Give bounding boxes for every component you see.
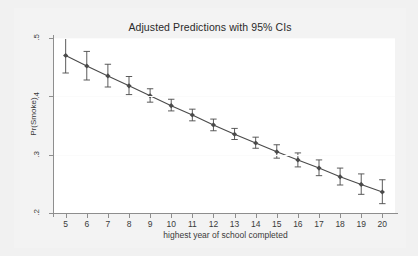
x-axis-tick: [171, 214, 172, 218]
x-axis-tick: [87, 214, 88, 218]
data-point-marker: [211, 122, 216, 127]
x-axis-tick-label: 17: [308, 219, 330, 229]
data-point-marker: [316, 165, 321, 170]
data-point-marker: [190, 112, 195, 117]
y-axis-title: Pr(Smoke): [29, 82, 38, 152]
y-axis-tick: [49, 96, 53, 97]
x-axis-tick: [319, 214, 320, 218]
data-point-marker: [253, 140, 258, 145]
data-point-marker: [169, 103, 174, 108]
x-axis-tick-label: 13: [224, 219, 246, 229]
x-axis-tick-label: 11: [181, 219, 203, 229]
x-axis-tick-label: 15: [266, 219, 288, 229]
data-point-marker: [274, 149, 279, 154]
x-axis-tick-label: 9: [139, 219, 161, 229]
x-axis-tick: [298, 214, 299, 218]
y-axis-line: [53, 35, 54, 217]
series-plot: [53, 38, 395, 213]
x-axis-tick: [361, 214, 362, 218]
data-point-marker: [232, 132, 237, 137]
data-point-marker: [63, 53, 68, 58]
stata-graph-region: Adjusted Predictions with 95% CIs .2.3.4…: [14, 8, 406, 248]
x-axis-tick: [235, 214, 236, 218]
x-axis-tick: [129, 214, 130, 218]
x-axis-tick-label: 10: [160, 219, 182, 229]
x-axis-tick-label: 19: [350, 219, 372, 229]
x-axis-tick: [213, 214, 214, 218]
x-axis-tick: [382, 214, 383, 218]
x-axis-tick-label: 12: [202, 219, 224, 229]
x-axis-tick-label: 5: [55, 219, 77, 229]
x-axis-tick: [277, 214, 278, 218]
x-axis-tick-label: 7: [97, 219, 119, 229]
gridline-y: [53, 38, 395, 39]
x-axis-tick: [192, 214, 193, 218]
data-point-marker: [126, 83, 131, 88]
y-axis-tick: [49, 38, 53, 39]
data-point-marker: [338, 174, 343, 179]
x-axis-tick: [256, 214, 257, 218]
x-axis-tick: [150, 214, 151, 218]
x-axis-tick-label: 20: [371, 219, 393, 229]
x-axis-tick: [340, 214, 341, 218]
x-axis-line: [53, 213, 398, 214]
gridline-y: [53, 96, 395, 97]
y-axis-tick: [49, 213, 53, 214]
plot-area: [53, 38, 395, 213]
data-point-marker: [295, 157, 300, 162]
x-axis-tick-label: 14: [245, 219, 267, 229]
y-axis-tick: [49, 155, 53, 156]
series-line: [66, 56, 383, 193]
data-point-marker: [84, 63, 89, 68]
gridline-y: [53, 155, 395, 156]
chart-title: Adjusted Predictions with 95% CIs: [14, 21, 406, 33]
y-axis-tick-label: .5: [32, 28, 41, 48]
screenshot-root: Adjusted Predictions with 95% CIs .2.3.4…: [0, 0, 418, 256]
x-axis-tick-label: 6: [76, 219, 98, 229]
data-point-marker: [105, 73, 110, 78]
data-point-marker: [380, 189, 385, 194]
data-point-marker: [359, 182, 364, 187]
x-axis-tick: [108, 214, 109, 218]
x-axis-tick-label: 16: [287, 219, 309, 229]
x-axis-tick-label: 18: [329, 219, 351, 229]
x-axis-title: highest year of school completed: [53, 230, 398, 240]
y-axis-tick-label: .2: [32, 203, 41, 223]
x-axis-tick: [66, 214, 67, 218]
x-axis-tick-label: 8: [118, 219, 140, 229]
